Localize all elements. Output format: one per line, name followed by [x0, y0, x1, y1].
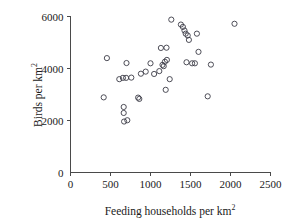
data-point [158, 45, 163, 50]
data-point [125, 118, 130, 123]
data-points [101, 17, 237, 124]
data-point [121, 104, 126, 109]
y-tick-label: 6000 [0, 11, 64, 22]
y-axis-title-text: Birds per km [32, 67, 44, 127]
x-axis-title-text: Feeding households per km [105, 205, 232, 217]
data-point [157, 69, 162, 74]
data-point [129, 75, 134, 80]
data-point [136, 95, 141, 100]
data-point [169, 17, 174, 22]
data-point [122, 119, 127, 124]
x-axis-title: Feeding households per km2 [105, 205, 236, 217]
data-point [104, 56, 109, 61]
x-tick-label: 0 [68, 179, 74, 190]
data-point [152, 71, 157, 76]
axis-lines [71, 17, 271, 173]
tick-marks [67, 17, 271, 177]
data-point [184, 60, 189, 65]
data-point [143, 69, 148, 74]
data-point [148, 61, 153, 66]
scatter-plot-figure: 05001000150020002500 0200040006000 Feedi… [0, 0, 289, 224]
data-point [232, 21, 237, 26]
data-point [208, 62, 213, 67]
x-tick-label: 1000 [140, 179, 162, 190]
data-point [101, 95, 106, 100]
x-tick-label: 2500 [260, 179, 282, 190]
data-point [124, 75, 129, 80]
data-point [137, 96, 142, 101]
data-point [196, 49, 201, 54]
y-axis-title: Birds per km2 [32, 63, 44, 127]
data-point [163, 87, 168, 92]
y-tick-label: 0 [0, 167, 64, 178]
data-point [205, 94, 210, 99]
x-axis-title-exponent: 2 [231, 203, 235, 212]
data-point [167, 77, 172, 82]
x-tick-label: 2000 [220, 179, 242, 190]
data-point [194, 31, 199, 36]
data-point [121, 110, 126, 115]
y-axis-title-exponent: 2 [30, 63, 39, 67]
x-tick-label: 500 [102, 179, 119, 190]
x-tick-label: 1500 [180, 179, 202, 190]
data-point [124, 60, 129, 65]
data-point [164, 45, 169, 50]
